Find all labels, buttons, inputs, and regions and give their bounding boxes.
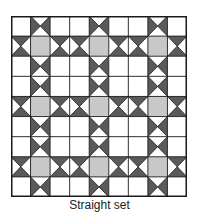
white-square-cell	[50, 56, 70, 76]
white-square-cell	[11, 137, 31, 157]
white-square-cell	[128, 76, 148, 96]
white-square-cell	[109, 76, 129, 96]
white-square-cell	[128, 117, 148, 137]
gray-square-cell	[31, 36, 51, 56]
white-square-cell	[11, 56, 31, 76]
figure-caption: Straight set	[0, 198, 199, 212]
white-square-cell	[70, 177, 90, 197]
white-square-cell	[109, 137, 129, 157]
gray-square-cell	[148, 36, 168, 56]
white-square-cell	[109, 56, 129, 76]
white-square-cell	[70, 117, 90, 137]
gray-square-cell	[148, 157, 168, 177]
white-square-cell	[50, 117, 70, 137]
gray-square-cell	[31, 96, 51, 116]
white-square-cell	[167, 56, 187, 76]
gray-square-cell	[148, 96, 168, 116]
white-square-cell	[109, 16, 129, 36]
white-square-cell	[11, 76, 31, 96]
white-square-cell	[11, 16, 31, 36]
white-square-cell	[50, 76, 70, 96]
white-square-cell	[128, 16, 148, 36]
white-square-cell	[50, 137, 70, 157]
gray-square-cell	[31, 157, 51, 177]
white-square-cell	[11, 117, 31, 137]
white-square-cell	[70, 76, 90, 96]
white-square-cell	[50, 177, 70, 197]
white-square-cell	[128, 56, 148, 76]
white-square-cell	[167, 137, 187, 157]
white-square-cell	[70, 16, 90, 36]
gray-square-cell	[89, 36, 109, 56]
gray-square-cell	[89, 96, 109, 116]
white-square-cell	[50, 16, 70, 36]
white-square-cell	[167, 117, 187, 137]
gray-square-cell	[89, 157, 109, 177]
white-square-cell	[167, 16, 187, 36]
white-square-cell	[109, 117, 129, 137]
white-square-cell	[167, 76, 187, 96]
quilt-diagram	[11, 16, 187, 197]
white-square-cell	[70, 56, 90, 76]
white-square-cell	[128, 137, 148, 157]
white-square-cell	[11, 177, 31, 197]
white-square-cell	[70, 137, 90, 157]
white-square-cell	[109, 177, 129, 197]
white-square-cell	[167, 177, 187, 197]
white-square-cell	[128, 177, 148, 197]
quilt-grid	[11, 16, 187, 197]
